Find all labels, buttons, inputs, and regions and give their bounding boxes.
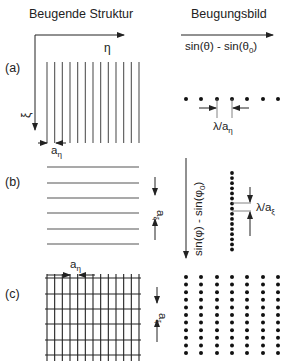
diffraction-dot — [199, 321, 203, 325]
diffraction-dot — [261, 343, 265, 347]
diffraction-dot — [261, 328, 265, 332]
diffraction-dot — [215, 328, 219, 332]
grating-vertical-lines — [47, 62, 139, 143]
diffraction-dot — [261, 305, 265, 309]
diffraction-dot — [230, 171, 234, 175]
diffraction-dot — [230, 321, 234, 325]
phi-axis: sin(φ) - sin(φ0) — [186, 158, 207, 258]
diffraction-dot — [230, 217, 234, 221]
diffraction-dot — [276, 283, 280, 287]
crossed-grating — [45, 274, 141, 361]
diffraction-diagram: Beugende Struktur Beugungsbild η ξ sin(θ… — [0, 0, 296, 361]
diffraction-dot — [199, 298, 203, 302]
diffraction-dot — [245, 336, 249, 340]
diffraction-dot — [261, 290, 265, 294]
diffraction-dot — [245, 275, 249, 279]
diffraction-dot — [276, 298, 280, 302]
diffraction-dot — [276, 290, 280, 294]
diffraction-dot — [230, 186, 234, 190]
eta-label: η — [104, 41, 111, 55]
diffraction-dot — [230, 343, 234, 347]
panel-label-c: (c) — [5, 287, 20, 301]
diffraction-dot — [230, 212, 234, 216]
diffraction-dot — [230, 328, 234, 332]
diffraction-dot — [230, 202, 234, 206]
diffraction-dot — [261, 336, 265, 340]
diffraction-dot — [215, 336, 219, 340]
diffraction-dot — [184, 321, 188, 325]
diffraction-dot — [199, 336, 203, 340]
diffraction-dot — [245, 305, 249, 309]
phi-axis-label: sin(φ) - sin(φ0) — [192, 182, 207, 256]
diffraction-dot — [230, 207, 234, 211]
diffraction-dot — [276, 305, 280, 309]
lambda-xi-annotation: λ/aξ — [232, 187, 275, 236]
diffraction-dot — [261, 298, 265, 302]
diffraction-dot — [230, 227, 234, 231]
diffraction-dot — [184, 275, 188, 279]
diffraction-dot — [184, 290, 188, 294]
diffraction-dot — [199, 313, 203, 317]
diffraction-dot — [276, 97, 280, 101]
diffraction-dot — [215, 305, 219, 309]
diffraction-dot — [184, 298, 188, 302]
diffraction-dot — [245, 328, 249, 332]
header-left: Beugende Struktur — [29, 7, 133, 21]
diffraction-dot — [276, 328, 280, 332]
a-xi-annotation-b: aξ — [152, 177, 167, 240]
panel-label-b: (b) — [5, 175, 20, 189]
panel-label-a: (a) — [5, 61, 20, 75]
diffraction-dot — [261, 313, 265, 317]
diffraction-dot — [245, 97, 249, 101]
diffraction-dot — [215, 275, 219, 279]
diffraction-dot — [199, 290, 203, 294]
diffraction-dot — [230, 351, 234, 355]
diffraction-dot — [230, 305, 234, 309]
diffraction-dot — [199, 328, 203, 332]
diffraction-dot — [276, 313, 280, 317]
diffraction-dot — [199, 97, 203, 101]
diffraction-dot — [276, 351, 280, 355]
svg-text:aη: aη — [70, 258, 81, 273]
diffraction-dot — [230, 192, 234, 196]
diffraction-dot — [261, 275, 265, 279]
a-eta-annotation-a: aη — [38, 143, 66, 159]
diffraction-dot — [199, 305, 203, 309]
diffraction-dot — [230, 232, 234, 236]
a-eta-annotation-c: aη — [47, 258, 95, 275]
svg-text:aξ: aξ — [152, 210, 167, 220]
diffraction-dot — [184, 313, 188, 317]
diffraction-dot — [230, 336, 234, 340]
diffraction-dot — [230, 181, 234, 185]
lambda-eta-annotation: λ/aη — [199, 99, 249, 135]
diffraction-dot — [230, 222, 234, 226]
header-right: Beugungsbild — [191, 7, 267, 21]
diffraction-dot — [245, 283, 249, 287]
diffraction-dot — [230, 237, 234, 241]
diffraction-dot — [215, 298, 219, 302]
diffraction-dot — [245, 343, 249, 347]
diffraction-grid-dots — [184, 275, 280, 355]
diffraction-dot — [261, 351, 265, 355]
theta-axis: sin(θ) - sin(θ0) — [181, 35, 273, 55]
svg-text:aη: aη — [51, 144, 62, 159]
diffraction-dot — [215, 283, 219, 287]
diffraction-dot — [230, 313, 234, 317]
diffraction-dot — [184, 343, 188, 347]
diffraction-dot — [276, 343, 280, 347]
diffraction-dot — [230, 197, 234, 201]
diffraction-dot — [276, 321, 280, 325]
diffraction-dot — [184, 328, 188, 332]
diffraction-dot — [276, 275, 280, 279]
xi-label: ξ — [19, 112, 33, 118]
diffraction-dot — [215, 313, 219, 317]
diffraction-dot — [199, 275, 203, 279]
diffraction-dot — [215, 321, 219, 325]
diffraction-dot — [245, 313, 249, 317]
svg-text:aξ: aξ — [154, 313, 169, 323]
diffraction-dot — [230, 176, 234, 180]
diffraction-dot — [199, 351, 203, 355]
diffraction-dot — [215, 343, 219, 347]
diffraction-dot — [184, 283, 188, 287]
diffraction-dot — [261, 283, 265, 287]
